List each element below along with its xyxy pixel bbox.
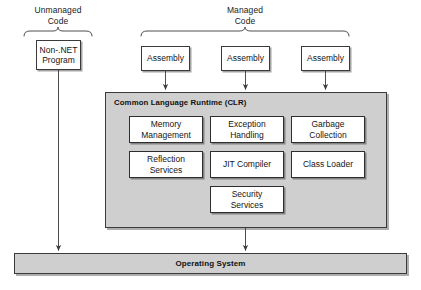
service-box-exception-handling: Exception Handling [210, 116, 284, 143]
non-dotnet-program-box: Non-.NET Program [36, 40, 81, 70]
service-garbage-collection-line1: Garbage [311, 119, 344, 130]
service-memory-management-line1: Memory [151, 119, 182, 130]
assembly-box-1-label: Assembly [147, 53, 184, 64]
service-box-memory-management: Memory Management [129, 116, 203, 143]
managed-code-brace [141, 27, 349, 36]
service-exception-handling-line2: Handling [230, 130, 264, 141]
service-box-reflection-services: Reflection Services [129, 151, 203, 178]
service-box-jit-compiler: JIT Compiler [210, 151, 284, 178]
service-memory-management-line2: Management [141, 130, 191, 141]
service-reflection-services-line2: Services [150, 165, 183, 176]
unmanaged-code-brace [24, 27, 92, 36]
service-class-loader-label: Class Loader [303, 159, 353, 170]
service-security-services-line1: Security [232, 189, 263, 200]
assembly-box-2-label: Assembly [227, 53, 264, 64]
clr-container: Common Language Runtime (CLR) Memory Man… [105, 92, 387, 228]
unmanaged-code-label: Unmanaged Code [21, 5, 95, 26]
clr-title: Common Language Runtime (CLR) [114, 98, 246, 107]
managed-code-label-line2: Code [208, 16, 282, 27]
service-jit-compiler-label: JIT Compiler [223, 159, 271, 170]
unmanaged-code-label-line2: Code [21, 16, 95, 27]
assembly-box-3-label: Assembly [307, 53, 344, 64]
service-garbage-collection-line2: Collection [309, 130, 346, 141]
assembly-box-3: Assembly [301, 46, 350, 71]
operating-system-box: Operating System [14, 253, 407, 274]
assembly-box-1: Assembly [141, 46, 190, 71]
service-security-services-line2: Services [231, 200, 264, 211]
operating-system-label: Operating System [175, 259, 245, 268]
non-dotnet-program-line2: Program [42, 55, 75, 66]
service-reflection-services-line1: Reflection [147, 154, 185, 165]
service-box-garbage-collection: Garbage Collection [291, 116, 365, 143]
managed-code-label: Managed Code [208, 5, 282, 26]
assembly-box-2: Assembly [221, 46, 270, 71]
service-exception-handling-line1: Exception [228, 119, 265, 130]
non-dotnet-program-line1: Non-.NET [40, 45, 78, 56]
unmanaged-code-label-line1: Unmanaged [21, 5, 95, 16]
dotnet-runtime-architecture-diagram: Unmanaged Code Managed Code Non-.NET Pro… [0, 0, 421, 290]
service-box-security-services: Security Services [210, 186, 284, 213]
managed-code-label-line1: Managed [208, 5, 282, 16]
service-box-class-loader: Class Loader [291, 151, 365, 178]
